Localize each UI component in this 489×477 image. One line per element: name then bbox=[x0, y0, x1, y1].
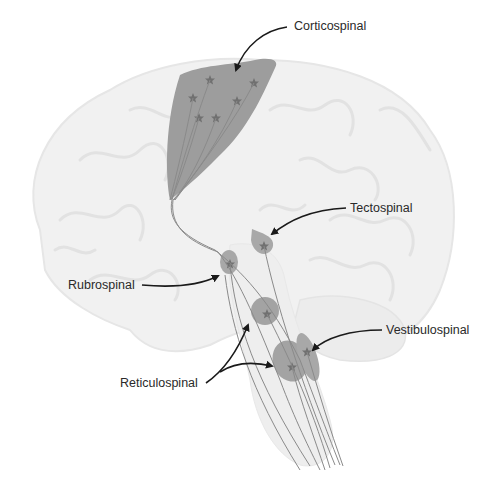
label-rubrospinal: Rubrospinal bbox=[68, 279, 135, 292]
brain-diagram: Corticospinal Tectospinal Rubrospinal Ve… bbox=[0, 0, 489, 477]
label-corticospinal: Corticospinal bbox=[294, 20, 366, 33]
brain-illustration bbox=[0, 0, 489, 477]
label-vestibulospinal: Vestibulospinal bbox=[386, 324, 469, 337]
label-reticulospinal: Reticulospinal bbox=[120, 377, 198, 390]
label-tectospinal: Tectospinal bbox=[350, 202, 413, 215]
